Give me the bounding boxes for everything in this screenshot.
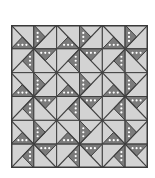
fabric-dot	[63, 44, 65, 46]
fabric-dot	[37, 40, 39, 42]
fabric-dot	[128, 79, 130, 81]
fabric-dot	[40, 99, 42, 101]
fabric-dot	[128, 131, 130, 133]
fabric-dot	[82, 127, 84, 129]
fabric-dot	[71, 139, 73, 141]
fabric-dot	[128, 87, 130, 89]
fabric-dot	[17, 91, 19, 93]
fabric-dot	[120, 64, 122, 66]
fabric-dot	[120, 56, 122, 58]
fabric-dot	[128, 36, 130, 38]
fabric-dot	[131, 52, 133, 54]
fabric-dot	[128, 83, 130, 85]
fabric-dot	[128, 127, 130, 129]
fabric-dot	[48, 52, 50, 54]
fabric-dot	[117, 91, 119, 93]
fabric-dot	[25, 139, 27, 141]
fabric-dot	[37, 79, 39, 81]
fabric-dot	[29, 56, 31, 58]
fabric-dot	[67, 91, 69, 93]
fabric-dot	[63, 139, 65, 141]
fabric-dot	[75, 64, 77, 66]
fabric-dot	[82, 79, 84, 81]
quilt-grid	[11, 25, 148, 168]
fabric-dot	[37, 135, 39, 137]
fabric-dot	[82, 131, 84, 133]
fabric-dot	[109, 44, 111, 46]
fabric-dot	[75, 56, 77, 58]
fabric-dot	[25, 91, 27, 93]
fabric-dot	[131, 99, 133, 101]
fabric-dot	[90, 99, 92, 101]
fabric-dot	[37, 32, 39, 34]
fabric-dot	[82, 32, 84, 34]
fabric-dot	[75, 155, 77, 157]
fabric-dot	[109, 91, 111, 93]
fabric-dot	[21, 44, 23, 46]
fabric-dot	[29, 107, 31, 109]
fabric-dot	[82, 135, 84, 137]
fabric-dot	[48, 99, 50, 101]
fabric-dot	[128, 32, 130, 34]
fabric-dot	[17, 44, 19, 46]
fabric-dot	[21, 91, 23, 93]
fabric-dot	[29, 60, 31, 62]
fabric-dot	[139, 99, 141, 101]
fabric-dot	[75, 159, 77, 161]
fabric-dot	[113, 91, 115, 93]
fabric-dot	[139, 52, 141, 54]
fabric-dot	[117, 139, 119, 141]
fabric-dot	[86, 52, 88, 54]
fabric-dot	[120, 60, 122, 62]
fabric-dot	[113, 139, 115, 141]
fabric-dot	[75, 111, 77, 113]
fabric-dot	[75, 151, 77, 153]
fabric-dot	[120, 151, 122, 153]
fabric-dot	[44, 52, 46, 54]
fabric-dot	[139, 147, 141, 149]
fabric-dot	[29, 159, 31, 161]
fabric-dot	[48, 147, 50, 149]
fabric-dot	[120, 107, 122, 109]
fabric-dot	[120, 111, 122, 113]
fabric-dot	[25, 44, 27, 46]
fabric-dot	[120, 155, 122, 157]
fabric-dot	[135, 147, 137, 149]
fabric-dot	[71, 44, 73, 46]
fabric-dot	[94, 147, 96, 149]
fabric-dot	[63, 91, 65, 93]
fabric-dot	[128, 40, 130, 42]
fabric-dot	[135, 52, 137, 54]
fabric-dot	[37, 131, 39, 133]
pinwheel-quilt	[11, 25, 148, 168]
fabric-dot	[37, 36, 39, 38]
fabric-dot	[82, 83, 84, 85]
fabric-dot	[117, 44, 119, 46]
fabric-dot	[37, 83, 39, 85]
fabric-dot	[109, 139, 111, 141]
fabric-dot	[44, 99, 46, 101]
fabric-dot	[29, 111, 31, 113]
fabric-dot	[29, 151, 31, 153]
fabric-dot	[75, 103, 77, 105]
fabric-dot	[94, 99, 96, 101]
fabric-dot	[82, 40, 84, 42]
fabric-dot	[75, 107, 77, 109]
fabric-dot	[75, 60, 77, 62]
fabric-dot	[131, 147, 133, 149]
fabric-dot	[37, 127, 39, 129]
fabric-dot	[128, 135, 130, 137]
fabric-dot	[67, 44, 69, 46]
fabric-dot	[120, 103, 122, 105]
fabric-dot	[40, 52, 42, 54]
fabric-dot	[29, 103, 31, 105]
fabric-dot	[29, 155, 31, 157]
fabric-dot	[71, 91, 73, 93]
fabric-dot	[44, 147, 46, 149]
fabric-dot	[82, 87, 84, 89]
fabric-dot	[67, 139, 69, 141]
fabric-dot	[40, 147, 42, 149]
fabric-dot	[37, 87, 39, 89]
fabric-dot	[21, 139, 23, 141]
fabric-dot	[82, 36, 84, 38]
